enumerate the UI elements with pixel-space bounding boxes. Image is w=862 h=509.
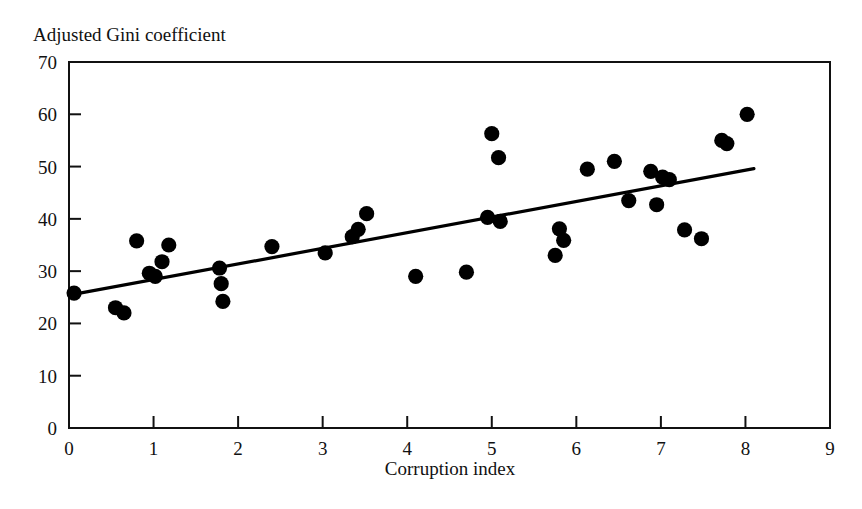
y-tick-label: 60 bbox=[38, 104, 57, 125]
x-axis-title: Corruption index bbox=[385, 458, 515, 480]
data-point bbox=[694, 231, 709, 246]
y-tick-label: 50 bbox=[38, 157, 57, 178]
data-point bbox=[621, 193, 636, 208]
y-tick-label: 30 bbox=[38, 261, 57, 282]
x-tick-label: 4 bbox=[402, 438, 412, 459]
data-point bbox=[66, 286, 81, 301]
axis-tick-marks bbox=[69, 114, 745, 428]
data-point bbox=[154, 254, 169, 269]
data-point bbox=[719, 136, 734, 151]
data-point bbox=[491, 150, 506, 165]
data-point bbox=[580, 162, 595, 177]
y-tick-label: 40 bbox=[38, 209, 57, 230]
data-point bbox=[408, 269, 423, 284]
data-point bbox=[351, 222, 366, 237]
data-point bbox=[484, 126, 499, 141]
x-axis-tick-labels: 0123456789 bbox=[64, 438, 835, 459]
data-point bbox=[677, 222, 692, 237]
x-tick-label: 1 bbox=[149, 438, 159, 459]
data-point bbox=[161, 237, 176, 252]
data-point bbox=[740, 107, 755, 122]
x-tick-label: 0 bbox=[64, 438, 74, 459]
data-point bbox=[264, 239, 279, 254]
x-tick-label: 2 bbox=[233, 438, 243, 459]
data-point-group bbox=[66, 107, 754, 321]
data-point bbox=[459, 265, 474, 280]
y-tick-label: 0 bbox=[48, 418, 58, 439]
x-tick-label: 9 bbox=[825, 438, 835, 459]
plot-canvas: 010203040506070 0123456789 bbox=[0, 0, 862, 509]
x-axis-title-wrap: Corruption index bbox=[0, 458, 862, 480]
x-tick-label: 8 bbox=[741, 438, 751, 459]
data-point bbox=[556, 233, 571, 248]
data-point bbox=[215, 294, 230, 309]
x-tick-label: 6 bbox=[572, 438, 582, 459]
data-point bbox=[214, 276, 229, 291]
data-point bbox=[607, 154, 622, 169]
data-point bbox=[212, 260, 227, 275]
data-point bbox=[493, 214, 508, 229]
data-point bbox=[148, 269, 163, 284]
y-tick-label: 10 bbox=[38, 366, 57, 387]
y-tick-label: 20 bbox=[38, 313, 57, 334]
y-axis-tick-labels: 010203040506070 bbox=[38, 52, 57, 439]
x-tick-label: 7 bbox=[656, 438, 666, 459]
data-point bbox=[129, 233, 144, 248]
data-point bbox=[649, 197, 664, 212]
data-point bbox=[359, 206, 374, 221]
x-tick-label: 5 bbox=[487, 438, 497, 459]
data-point bbox=[662, 172, 677, 187]
data-point bbox=[116, 305, 131, 320]
data-point bbox=[548, 248, 563, 263]
plot-frame bbox=[69, 62, 830, 428]
scatter-chart-figure: Adjusted Gini coefficient 01020304050607… bbox=[0, 0, 862, 509]
x-tick-label: 3 bbox=[318, 438, 328, 459]
data-point bbox=[318, 245, 333, 260]
y-tick-label: 70 bbox=[38, 52, 57, 73]
